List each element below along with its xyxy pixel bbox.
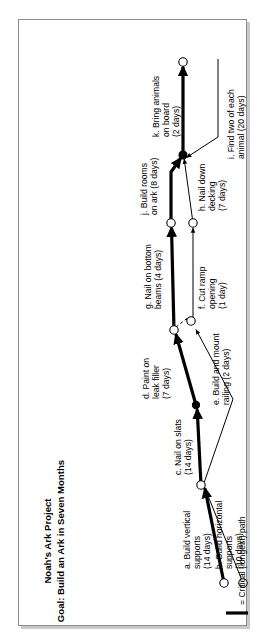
task-b-line-0: b. Build horizontal	[214, 501, 224, 569]
task-a-line-1: supports	[192, 536, 202, 569]
task-d-line-0: d. Paint on	[141, 358, 151, 399]
task-a-line-0: a. Build vertical	[182, 511, 192, 569]
task-i-line-0: i. Find two of each	[226, 89, 236, 159]
node-n8	[179, 151, 187, 159]
edge-task-h	[184, 159, 193, 223]
task-label-e: e. Build and mount railing (2 days)	[211, 333, 231, 405]
task-e-line-1: railing (2 days)	[221, 349, 231, 405]
task-h-line-2: (7 days)	[217, 180, 227, 211]
edge-task-d	[176, 335, 196, 406]
task-a-line-2: (14 days)	[202, 533, 212, 569]
task-i-line-1: animal (20 days)	[236, 95, 246, 159]
edge-task-i	[187, 59, 219, 158]
node-n6	[187, 317, 195, 325]
node-n9	[179, 58, 187, 66]
rotated-diagram-canvas: Noah's Ark Project Goal: Build an Ark in…	[19, 20, 248, 627]
task-k-line-2: (2 days)	[171, 106, 181, 137]
task-label-i: i. Find two of each animal (20 days)	[226, 89, 246, 159]
diagram-stage: Noah's Ark Project Goal: Build an Ark in…	[19, 20, 248, 627]
node-n3	[197, 481, 205, 489]
node-n5	[170, 326, 178, 334]
edge-task-j	[171, 159, 181, 224]
task-label-d: d. Paint on leak filler (7 days)	[141, 358, 171, 399]
task-f-line-1: opening	[207, 278, 217, 309]
task-label-c: c. Nail on slats (14 days)	[173, 419, 193, 475]
task-e-line-0: e. Build and mount	[211, 333, 221, 405]
paper-frame: Noah's Ark Project Goal: Build an Ark in…	[18, 19, 247, 626]
task-label-k: k. Bring animals on board (2 days)	[151, 76, 181, 137]
title-line-1: Noah's Ark Project	[42, 498, 53, 584]
task-j-line-1: on ark (8 days)	[149, 158, 159, 215]
task-c-line-0: c. Nail on slats	[173, 419, 183, 475]
task-label-a: a. Build vertical supports (14 days)	[182, 511, 212, 569]
task-label-j: j. Build rooms on ark (8 days)	[139, 158, 159, 216]
task-h-line-0: h. Nail down	[197, 163, 207, 211]
task-h-line-1: decking	[207, 181, 217, 211]
title-line-2: Goal: Build an Ark in Seven Months	[55, 460, 66, 622]
task-g-line-0: g. Nail on bottom	[143, 244, 153, 309]
task-label-f: f. Cut ramp opening (1 day)	[197, 266, 227, 309]
task-f-line-0: f. Cut ramp	[197, 266, 207, 309]
task-label-h: h. Nail down decking (7 days)	[197, 163, 227, 211]
task-d-line-2: (7 days)	[161, 368, 171, 399]
task-g-line-1: beams (4 days)	[153, 250, 163, 309]
task-d-line-1: leak filler	[151, 365, 161, 399]
task-b-line-1: supports	[224, 536, 234, 569]
node-n7	[167, 219, 175, 227]
task-k-line-1: on board	[161, 103, 171, 137]
node-n1	[220, 579, 228, 587]
edge-task-c	[197, 410, 201, 486]
task-j-line-0: j. Build rooms	[139, 163, 149, 216]
network-diagram-svg: Noah's Ark Project Goal: Build an Ark in…	[19, 20, 248, 627]
node-n4	[192, 401, 199, 408]
task-f-line-2: (1 day)	[217, 282, 227, 309]
figure-title: Noah's Ark Project Goal: Build an Ark in…	[42, 460, 66, 622]
edge-task-g	[172, 228, 175, 331]
task-c-line-1: (14 days)	[183, 439, 193, 475]
task-label-g: g. Nail on bottom beams (4 days)	[143, 244, 163, 309]
node-n8-open	[189, 219, 197, 227]
figure-page: Noah's Ark Project Goal: Build an Ark in…	[0, 0, 264, 643]
task-k-line-0: k. Bring animals	[151, 76, 161, 137]
legend-label: = Critical (longest) path	[237, 516, 247, 605]
